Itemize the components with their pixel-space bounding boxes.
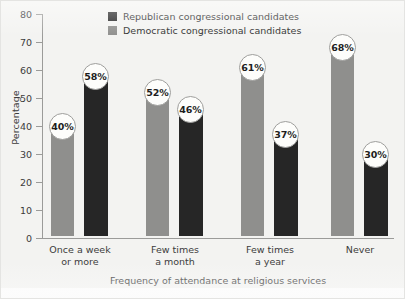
chart-legend: Republican congressional candidates Demo… — [108, 10, 338, 38]
y-tick-label-60: 60 — [6, 66, 32, 76]
y-tick-label-50: 50 — [6, 94, 32, 104]
x-category-line-1: Once a week — [39, 244, 121, 256]
legend-label-republican: Republican congressional candidates — [123, 11, 299, 22]
x-category-line-1: Few times — [134, 244, 216, 256]
bar-dem-few-times-a-month — [146, 90, 169, 236]
y-tick-label-20: 20 — [6, 178, 32, 188]
x-category-line-2: a year — [229, 256, 311, 268]
x-category-label-few-times-a-month: Few times a month — [134, 244, 216, 268]
bar-value-rep-once-a-week: 58% — [82, 63, 109, 90]
y-tick-label-80: 80 — [6, 10, 32, 20]
x-category-line-2: a month — [134, 256, 216, 268]
chart-figure: Republican congressional candidates Demo… — [0, 0, 405, 299]
y-tick-label-40: 40 — [6, 122, 32, 132]
bar-dem-once-a-week — [51, 124, 74, 236]
y-tick-label-10: 10 — [6, 206, 32, 216]
x-category-line-2: or more — [39, 256, 121, 268]
legend-swatch-republican — [108, 12, 117, 21]
y-tick-80 — [36, 14, 42, 15]
x-axis-title: Frequency of attendance at religious ser… — [42, 275, 394, 286]
y-tick-30 — [36, 154, 42, 155]
bar-value-dem-never: 68% — [329, 34, 356, 61]
bar-value-dem-few-times-a-month: 52% — [144, 79, 171, 106]
y-tick-40 — [36, 126, 42, 127]
bar-rep-few-times-a-month — [179, 107, 203, 236]
bar-value-dem-few-times-a-year: 61% — [239, 54, 266, 81]
y-tick-label-30: 30 — [6, 150, 32, 160]
y-tick-20 — [36, 182, 42, 183]
y-tick-50 — [36, 98, 42, 99]
y-tick-10 — [36, 210, 42, 211]
x-category-label-never: Never — [319, 244, 401, 256]
bar-value-rep-never: 30% — [362, 141, 389, 168]
x-axis-line — [42, 238, 394, 239]
bar-value-rep-few-times-a-year: 37% — [272, 121, 299, 148]
legend-swatch-democratic — [108, 26, 117, 35]
legend-label-democratic: Democratic congressional candidates — [123, 25, 301, 36]
bar-dem-never — [331, 45, 354, 236]
legend-item-republican: Republican congressional candidates — [108, 10, 338, 23]
x-category-line-1: Few times — [229, 244, 311, 256]
y-tick-label-70: 70 — [6, 38, 32, 48]
y-tick-70 — [36, 42, 42, 43]
y-axis-title: Percentage — [10, 76, 21, 160]
bar-dem-few-times-a-year — [241, 65, 264, 236]
y-tick-label-0: 0 — [6, 234, 32, 244]
x-category-label-few-times-a-year: Few times a year — [229, 244, 311, 268]
x-category-line-1: Never — [319, 244, 401, 256]
y-axis-line — [42, 14, 43, 239]
legend-item-democratic: Democratic congressional candidates — [108, 24, 338, 37]
y-tick-60 — [36, 70, 42, 71]
bar-value-rep-few-times-a-month: 46% — [177, 96, 204, 123]
bar-rep-once-a-week — [84, 74, 108, 236]
x-category-label-once-a-week: Once a week or more — [39, 244, 121, 268]
bar-value-dem-once-a-week: 40% — [49, 113, 76, 140]
figure-bottom-margin — [1, 288, 404, 298]
